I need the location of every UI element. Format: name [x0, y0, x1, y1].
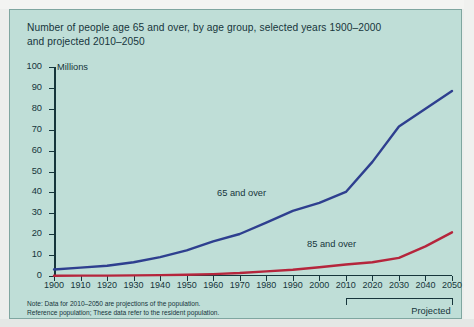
chart-notes: Note: Data for 2010–2050 are projections… — [27, 299, 219, 317]
note-line-1: Note: Data for 2010–2050 are projections… — [27, 300, 200, 307]
x-tick-label-2040: 2040 — [415, 280, 435, 290]
series-label-65-and-over: 65 and over — [217, 188, 266, 198]
paper-right-edge — [464, 0, 474, 327]
x-tick-label-1990: 1990 — [283, 280, 303, 290]
x-tick-label-1960: 1960 — [203, 280, 223, 290]
line-65-and-over — [54, 91, 452, 269]
note-line-2: Reference population; These data refer t… — [27, 308, 219, 317]
series-lines — [54, 67, 452, 276]
x-tick-label-2020: 2020 — [362, 280, 382, 290]
plot-area: 0102030405060708090100 19001910192019301… — [54, 67, 452, 276]
y-tick-label-90: 90 — [32, 82, 42, 92]
y-tick-label-20: 20 — [32, 228, 42, 238]
x-tick-label-1900: 1900 — [44, 280, 64, 290]
paper-bottom-edge — [0, 319, 474, 327]
x-tick-label-1950: 1950 — [177, 280, 197, 290]
x-tick-label-1920: 1920 — [97, 280, 117, 290]
chart-title-line-1: Number of people age 65 and over, by age… — [27, 22, 381, 33]
y-tick-label-50: 50 — [32, 166, 42, 176]
y-tick-label-100: 100 — [26, 61, 42, 71]
x-tick-label-2010: 2010 — [336, 280, 356, 290]
projected-bracket-tick-right — [452, 298, 453, 305]
x-tick-label-1940: 1940 — [150, 280, 170, 290]
x-tick-label-1930: 1930 — [124, 280, 144, 290]
y-tick-label-30: 30 — [32, 207, 42, 217]
x-tick-label-2000: 2000 — [309, 280, 329, 290]
y-tick-label-40: 40 — [32, 186, 42, 196]
chart-panel: Number of people age 65 and over, by age… — [9, 9, 462, 319]
x-tick-label-2050: 2050 — [442, 280, 462, 290]
y-tick-label-60: 60 — [32, 145, 42, 155]
projected-bracket-tick-left — [346, 298, 347, 305]
y-tick-label-80: 80 — [32, 103, 42, 113]
x-tick-label-1910: 1910 — [71, 280, 91, 290]
y-tick-label-10: 10 — [32, 249, 42, 259]
projected-label: Projected — [411, 306, 450, 316]
y-tick-label-0: 0 — [37, 270, 42, 280]
x-tick-label-1980: 1980 — [256, 280, 276, 290]
x-tick-label-1970: 1970 — [230, 280, 250, 290]
line-85-and-over — [54, 232, 452, 275]
figure-container: Number of people age 65 and over, by age… — [0, 0, 474, 327]
chart-title-line-2: and projected 2010–2050 — [27, 35, 452, 49]
chart-title: Number of people age 65 and over, by age… — [27, 21, 452, 48]
y-tick-label-70: 70 — [32, 124, 42, 134]
projected-bracket-line — [346, 298, 452, 299]
paper-top-edge — [0, 0, 474, 9]
series-label-85-and-over: 85 and over — [307, 239, 356, 249]
x-tick-label-2030: 2030 — [389, 280, 409, 290]
